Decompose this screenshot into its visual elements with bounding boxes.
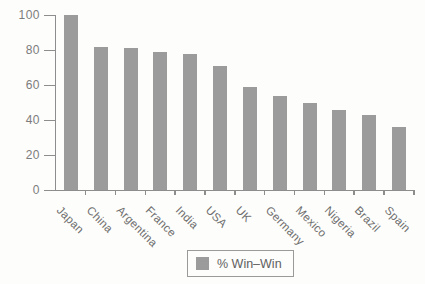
y-axis-tick-label: 20	[4, 148, 40, 162]
x-axis-tick	[353, 190, 355, 195]
x-axis-tick	[145, 190, 147, 195]
bar-india	[183, 54, 197, 191]
legend-label: % Win–Win	[217, 257, 282, 271]
bar-japan	[64, 15, 78, 190]
y-axis-tick	[44, 85, 55, 87]
bar-mexico	[303, 103, 317, 191]
y-axis-tick-label: 80	[4, 43, 40, 57]
y-axis-tick-label: 0	[4, 183, 40, 197]
x-axis-tick	[294, 190, 296, 195]
y-axis-tick	[44, 120, 55, 122]
bar-uk	[243, 87, 257, 190]
legend-swatch-icon	[196, 257, 209, 270]
x-axis-tick	[85, 190, 87, 195]
y-axis-tick-label: 60	[4, 78, 40, 92]
x-axis-tick	[174, 190, 176, 195]
x-axis-label-india: India	[174, 204, 201, 231]
x-axis-label-uk: UK	[233, 204, 253, 224]
y-axis-tick	[44, 155, 55, 157]
x-axis-label-china: China	[84, 204, 115, 235]
bar-france	[153, 52, 167, 190]
y-axis-tick	[44, 50, 55, 52]
x-axis-tick	[413, 190, 415, 195]
win-win-bar-chart: JapanChinaArgentinaFranceIndiaUSAUKGerma…	[0, 0, 425, 284]
bar-brazil	[362, 115, 376, 190]
y-axis-tick-label: 100	[4, 8, 40, 22]
x-axis-tick	[383, 190, 385, 195]
y-axis-tick	[44, 190, 55, 192]
x-axis-tick	[115, 190, 117, 195]
x-axis-label-nigeria: Nigeria	[323, 204, 359, 240]
bar-argentina	[124, 48, 138, 190]
bar-germany	[273, 96, 287, 191]
bar-spain	[392, 127, 406, 190]
x-axis-tick	[204, 190, 206, 195]
plot-area: JapanChinaArgentinaFranceIndiaUSAUKGerma…	[55, 15, 414, 191]
x-axis-label-usa: USA	[204, 204, 230, 230]
bar-nigeria	[332, 110, 346, 191]
y-axis-tick-label: 40	[4, 113, 40, 127]
x-axis-tick	[324, 190, 326, 195]
bar-usa	[213, 66, 227, 190]
bar-china	[94, 47, 108, 191]
legend: % Win–Win	[187, 250, 294, 277]
y-axis-tick	[44, 15, 55, 17]
x-axis-label-japan: Japan	[54, 204, 86, 236]
x-axis-label-spain: Spain	[383, 204, 413, 234]
x-axis-tick	[234, 190, 236, 195]
x-axis-tick	[264, 190, 266, 195]
